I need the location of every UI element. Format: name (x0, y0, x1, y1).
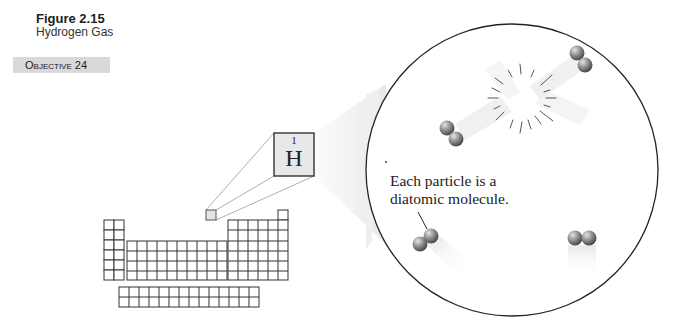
callout-line-2: diatomic molecule. (390, 190, 509, 208)
hydrogen-diagram (0, 0, 695, 328)
d-block (127, 241, 227, 280)
periodic-table (104, 210, 288, 307)
stray-dot (385, 161, 387, 163)
f-block (119, 287, 259, 307)
callout-line-1: Each particle is a (390, 172, 509, 190)
s-block (104, 220, 124, 280)
p-block (228, 220, 288, 280)
callout-text: Each particle is a diatomic molecule. (390, 172, 509, 208)
element-symbol: H (274, 145, 314, 171)
magnified-view-circle (366, 24, 658, 316)
